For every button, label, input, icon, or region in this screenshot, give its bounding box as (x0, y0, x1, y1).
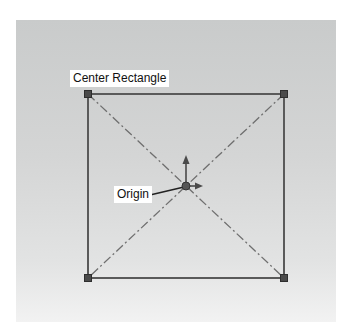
origin-point[interactable] (182, 182, 190, 190)
x-axis-arrow-icon (195, 183, 203, 190)
corner-handle-top-left[interactable] (85, 91, 92, 98)
sketch-drawing (0, 0, 350, 324)
corner-handle-bottom-right[interactable] (281, 275, 288, 282)
center-rectangle-label: Center Rectangle (70, 70, 169, 87)
corner-handle-bottom-left[interactable] (85, 275, 92, 282)
corner-handle-top-right[interactable] (281, 91, 288, 98)
origin-label: Origin (114, 186, 152, 203)
origin-leader-line (150, 187, 184, 195)
y-axis-arrow-icon (183, 155, 190, 164)
